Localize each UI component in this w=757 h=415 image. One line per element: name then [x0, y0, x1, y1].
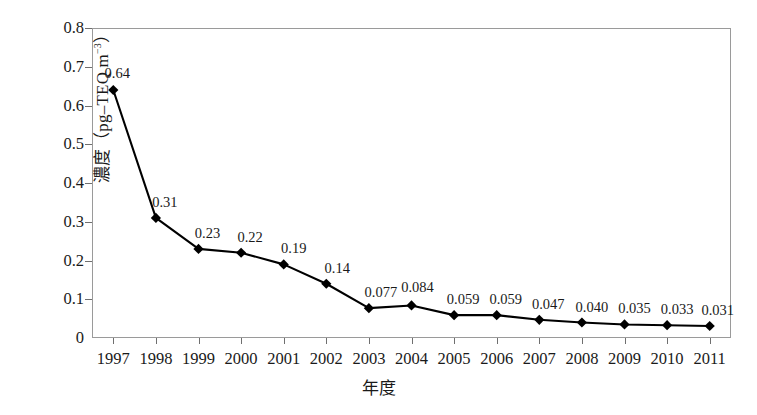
data-point-marker	[108, 85, 118, 95]
data-point-marker	[279, 259, 289, 269]
data-point-marker	[236, 248, 246, 258]
data-point-label: 0.031	[688, 303, 748, 318]
data-point-marker	[705, 321, 715, 331]
data-series	[0, 0, 757, 415]
data-point-marker	[449, 310, 459, 320]
data-point-label: 0.14	[307, 261, 367, 276]
data-point-marker	[577, 317, 587, 327]
data-point-marker	[321, 279, 331, 289]
data-point-marker	[406, 300, 416, 310]
x-axis-title: 年度	[0, 374, 757, 399]
data-point-marker	[364, 303, 374, 313]
data-point-marker	[492, 310, 502, 320]
data-point-marker	[619, 319, 629, 329]
data-point-marker	[534, 315, 544, 325]
data-point-label: 0.31	[135, 195, 195, 210]
chart-figure: 濃度（pg–TEQ m−3） 00.10.20.30.40.50.60.70.8…	[0, 0, 757, 415]
data-point-label: 0.19	[264, 241, 324, 256]
data-point-label: 0.64	[87, 66, 147, 81]
data-point-marker	[662, 320, 672, 330]
